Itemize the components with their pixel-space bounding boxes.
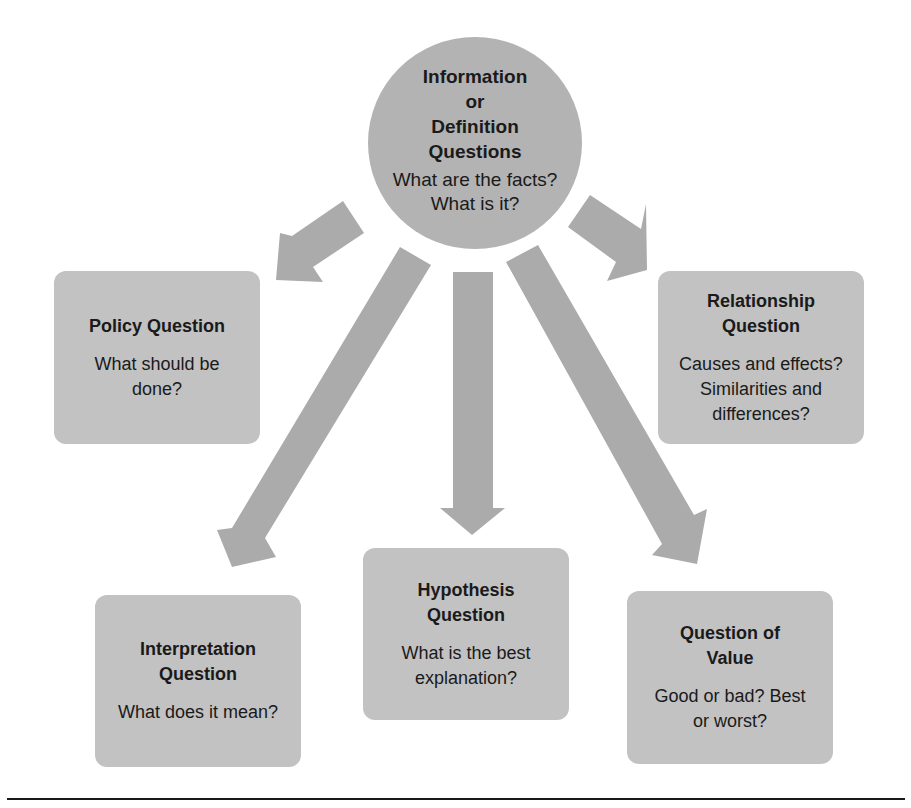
node-title: Relationship Question [707,289,815,339]
node-body: Good or bad? Best or worst? [654,684,805,734]
node-title-line: Relationship [707,289,815,314]
node-title-line: Question [140,662,256,687]
node-title: Policy Question [89,314,225,339]
node-body-line: done? [94,377,219,402]
node-title-line: Value [680,646,780,671]
bottom-rule-divider [7,798,905,800]
node-title: Interpretation Question [140,637,256,687]
node-title-line: Interpretation [140,637,256,662]
node-body-line: What should be [94,352,219,377]
hub-body-line: What are the facts? [393,168,558,192]
node-body: What does it mean? [118,700,278,725]
node-title-line: Policy Question [89,314,225,339]
node-question-of-value: Question of Value Good or bad? Best or w… [627,591,833,764]
hub-body: What are the facts? What is it? [393,168,558,216]
node-body-line: What does it mean? [118,700,278,725]
node-interpretation-question: Interpretation Question What does it mea… [95,595,301,767]
node-relationship-question: Relationship Question Causes and effects… [658,271,864,444]
node-body: What should be done? [94,352,219,402]
node-body: Causes and effects? Similarities and dif… [679,352,843,427]
hub-title-line: Information [423,64,528,89]
node-body-line: Good or bad? Best [654,684,805,709]
node-body-line: Similarities and [679,377,843,402]
arrow-to-policy [276,201,364,282]
hub-body-line: What is it? [393,192,558,216]
node-body-line: or worst? [654,709,805,734]
node-title-line: Question [707,314,815,339]
node-title: Question of Value [680,621,780,671]
node-title: Hypothesis Question [417,578,514,628]
arrow-to-relationship [568,195,647,281]
node-title-line: Hypothesis [417,578,514,603]
node-hypothesis-question: Hypothesis Question What is the best exp… [363,548,569,720]
node-policy-question: Policy Question What should be done? [54,271,260,444]
hub-title-line: or [423,89,528,114]
hub-title-line: Definition [423,114,528,139]
node-body-line: What is the best [401,641,530,666]
node-title-line: Question of [680,621,780,646]
node-body-line: Causes and effects? [679,352,843,377]
node-title-line: Question [417,603,514,628]
hub-title-line: Questions [423,139,528,164]
node-body-line: differences? [679,402,843,427]
arrow-to-hypothesis [440,272,505,535]
node-body: What is the best explanation? [401,641,530,691]
node-body-line: explanation? [401,666,530,691]
hub-information-questions: Information or Definition Questions What… [368,37,582,249]
hub-title: Information or Definition Questions [423,64,528,164]
